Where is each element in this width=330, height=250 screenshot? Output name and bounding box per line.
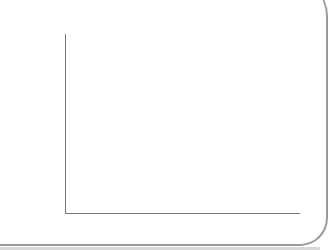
x-axis-line	[65, 213, 300, 214]
y-axis-line	[65, 34, 66, 214]
chart-frame	[0, 0, 328, 246]
